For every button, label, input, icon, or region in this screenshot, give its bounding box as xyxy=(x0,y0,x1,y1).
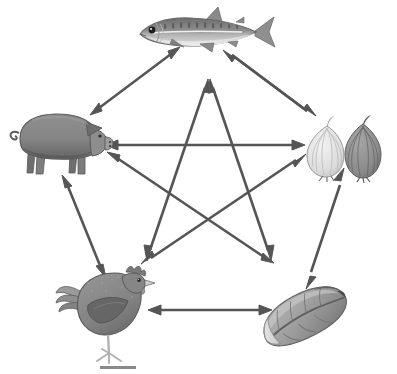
onion-dark-bulb xyxy=(345,115,381,183)
hen-leg xyxy=(108,335,109,353)
node-chicken[interactable] xyxy=(56,266,155,363)
edge-pig-cabbage xyxy=(107,152,274,263)
node-fish[interactable] xyxy=(140,7,275,52)
fish-eye-glint xyxy=(150,28,152,30)
onion-light-neck xyxy=(327,116,334,127)
scale-bar xyxy=(100,366,136,369)
hen-eye-glint xyxy=(138,279,139,280)
pig-nostril-lower xyxy=(109,145,111,147)
edge-pig-chicken xyxy=(62,175,106,278)
edge-onion-chicken xyxy=(141,154,306,264)
cabbage-outer-leaf xyxy=(254,275,354,356)
node-pig[interactable] xyxy=(11,114,113,174)
fish-tail-fin xyxy=(255,17,275,47)
hen-eye xyxy=(137,278,141,282)
edge-pig-onion xyxy=(105,140,305,150)
edge-fish-onion xyxy=(223,50,316,116)
fish-anal-fin xyxy=(228,41,238,47)
pig-tail xyxy=(11,132,19,140)
hen-tail xyxy=(56,287,80,312)
edge-onion-cabbage xyxy=(306,168,344,289)
pig-eye xyxy=(98,134,101,137)
edge-chicken-cabbage xyxy=(148,305,272,315)
fish-ventral-fin xyxy=(200,43,214,52)
edge-fish-chicken xyxy=(144,79,210,261)
onion-dark-neck xyxy=(363,115,371,125)
node-cabbage[interactable] xyxy=(254,274,355,356)
hen-beak xyxy=(145,280,155,286)
edge-fish-cabbage xyxy=(208,79,274,261)
node-onion[interactable] xyxy=(307,115,381,183)
food-network-diagram: Pentagonal food-item relationship networ… xyxy=(0,0,397,374)
fish-eye xyxy=(149,27,156,34)
edge-fish-pig xyxy=(90,47,180,115)
fish-finlet-upper xyxy=(236,17,244,23)
onion-light-bulb xyxy=(307,116,344,182)
pig-nostril-upper xyxy=(109,141,111,143)
pig-hind-leg-far xyxy=(27,154,35,173)
diagram-canvas xyxy=(0,0,397,374)
